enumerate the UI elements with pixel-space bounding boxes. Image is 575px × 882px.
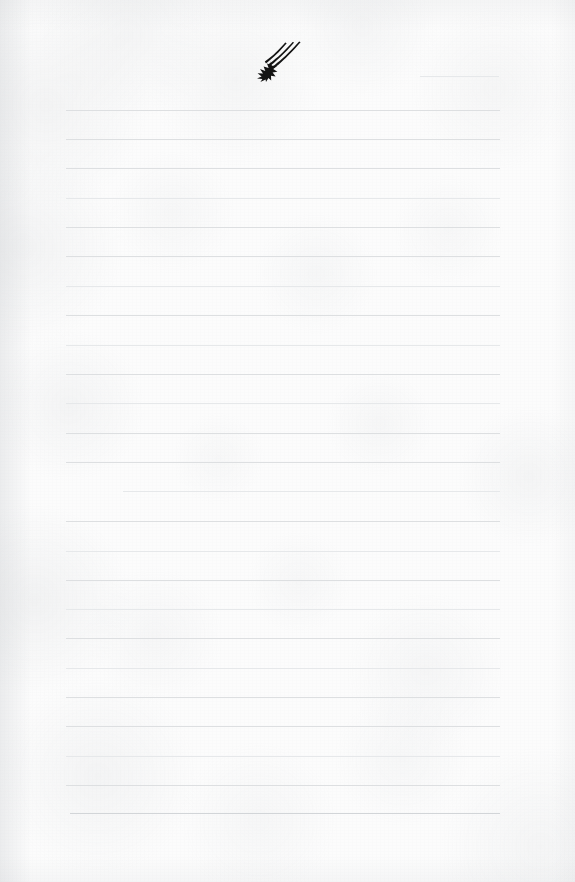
ruled-line <box>66 315 500 316</box>
ruled-line <box>66 139 500 140</box>
ruled-line <box>66 756 500 757</box>
ruled-line <box>66 551 500 552</box>
ruled-line <box>66 521 500 522</box>
ruled-line <box>123 491 500 492</box>
shooting-star-icon <box>255 40 303 82</box>
paper-background <box>0 0 575 882</box>
ruled-line <box>66 726 500 727</box>
ruled-line <box>66 227 500 228</box>
ruled-line <box>70 813 500 814</box>
ruled-line <box>66 198 500 199</box>
ruled-line <box>66 345 500 346</box>
ruled-line <box>66 462 500 463</box>
ruled-line <box>66 286 500 287</box>
ruled-line <box>66 110 500 111</box>
ruled-line <box>66 403 500 404</box>
ruled-line <box>66 168 500 169</box>
ruled-line <box>66 785 500 786</box>
ruled-line <box>66 256 500 257</box>
ruled-line <box>66 580 500 581</box>
ruled-line <box>66 433 500 434</box>
ruled-line <box>420 76 499 77</box>
notebook-page <box>0 0 575 882</box>
ruled-line <box>66 638 500 639</box>
ruled-line <box>66 697 500 698</box>
ruled-line <box>66 374 500 375</box>
ruled-line <box>66 668 500 669</box>
ruled-line <box>66 609 500 610</box>
